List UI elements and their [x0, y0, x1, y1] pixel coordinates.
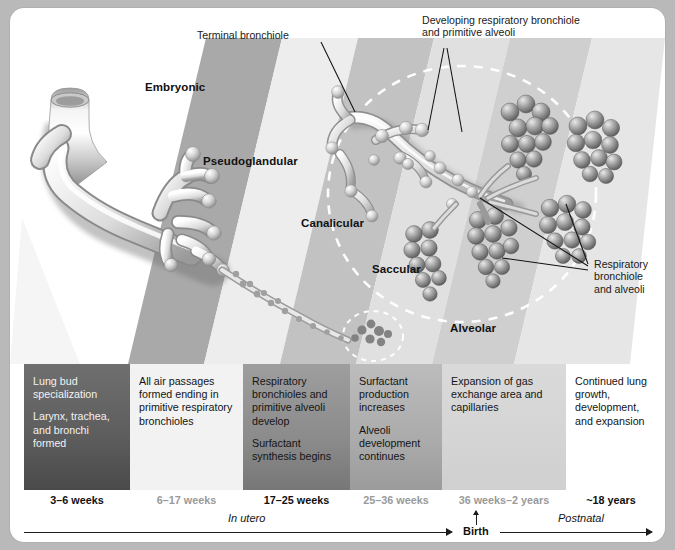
weeks-label-alveolar: 36 weeks–2 years: [442, 494, 566, 512]
stage-label-canalicular: Canalicular: [301, 217, 364, 229]
table-column-postnatal: Continued lung growth, development, and …: [566, 364, 656, 490]
cell-text: All air passages formed ending in primit…: [139, 375, 236, 428]
weeks-label-embryonic: 3–6 weeks: [24, 494, 130, 512]
timeline-arrowhead-birth: [446, 528, 453, 536]
table-column-alveolar: Expansion of gas exchange area and capil…: [442, 364, 566, 490]
weeks-label-postnatal: ~18 years: [566, 494, 656, 512]
callout-respiratory-bronchiole-and-alveoli: Respiratory bronchiole and alveoli: [594, 258, 648, 295]
stage-label-embryonic: Embryonic: [145, 81, 205, 93]
lung-development-illustration: Embryonic Pseudoglandular Canalicular Sa…: [10, 8, 665, 364]
callout-terminal-bronchiole: Terminal bronchiole: [197, 29, 289, 41]
weeks-label-saccular: 25–36 weeks: [350, 494, 442, 512]
cell-text: Larynx, trachea, and bronchi formed: [33, 410, 123, 450]
callout-developing-respiratory-bronchiole: Developing respiratory bronchiole and pr…: [422, 14, 580, 39]
cell-text: Respiratory bronchioles and primitive al…: [252, 375, 343, 428]
table-column-canalicular: Respiratory bronchioles and primitive al…: [243, 364, 350, 490]
cell-text: Surfactant production increases: [359, 375, 435, 415]
stage-label-saccular: Saccular: [372, 263, 421, 275]
cell-text: Surfactant synthesis begins: [252, 437, 343, 463]
table-column-pseudoglandular: All air passages formed ending in primit…: [130, 364, 243, 490]
stage-label-pseudoglandular: Pseudoglandular: [203, 155, 298, 167]
timeline-arrowhead-end: [646, 528, 653, 536]
cell-text: Continued lung growth, development, and …: [575, 375, 649, 428]
timeline-in-utero-label: In utero: [228, 512, 265, 524]
cell-text: Alveoli development continues: [359, 424, 435, 464]
stage-label-alveolar: Alveolar: [450, 322, 496, 334]
cell-text: Lung bud specialization: [33, 375, 123, 401]
weeks-label-canalicular: 17–25 weeks: [243, 494, 350, 512]
table-column-saccular: Surfactant production increases Alveoli …: [350, 364, 442, 490]
timeline-birth-label: Birth: [459, 525, 493, 537]
illustration-svg: [10, 8, 665, 364]
stage-table: Lung bud specialization Larynx, trachea,…: [10, 364, 665, 542]
cell-text: Expansion of gas exchange area and capil…: [451, 375, 559, 415]
timeline-postnatal-label: Postnatal: [558, 512, 604, 524]
timeline-axis: [24, 532, 652, 533]
figure-card: Embryonic Pseudoglandular Canalicular Sa…: [10, 8, 665, 542]
weeks-label-pseudoglandular: 6–17 weeks: [130, 494, 243, 512]
table-column-embryonic: Lung bud specialization Larynx, trachea,…: [24, 364, 130, 490]
